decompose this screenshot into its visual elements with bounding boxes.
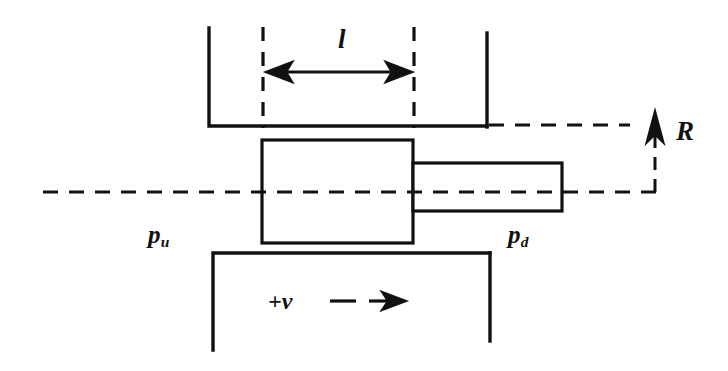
pressure-subscript-u: u: [161, 233, 170, 250]
downstream-pressure-label: pd: [508, 222, 529, 250]
spool-stem-rectangle: [413, 163, 562, 211]
pressure-subscript-d: d: [521, 233, 529, 250]
pressure-symbol-p: p: [508, 221, 521, 248]
pressure-symbol-p: p: [148, 221, 161, 248]
spool-valve-figure: l R pu pd +v: [0, 0, 728, 371]
diagram-canvas: [0, 0, 728, 371]
upstream-pressure-label: pu: [148, 222, 169, 250]
velocity-label: +v: [268, 289, 292, 313]
upper-left-chamber-wall: [209, 28, 487, 126]
length-dimension-arrow: [266, 62, 412, 82]
length-label-l: l: [338, 26, 346, 53]
velocity-direction-arrow: [330, 292, 406, 310]
reaction-force-label-R: R: [676, 118, 694, 145]
reaction-force-arrow: [647, 112, 663, 192]
